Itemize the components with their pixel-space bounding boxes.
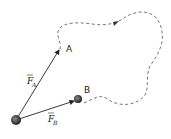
dashed-path bbox=[58, 12, 163, 104]
label-fa: F A bbox=[26, 75, 37, 88]
svg-text:A: A bbox=[31, 81, 37, 88]
path-direction-arrow-icon bbox=[113, 21, 119, 26]
label-fb: F B bbox=[47, 113, 58, 126]
particle-b bbox=[74, 95, 82, 103]
origin-particle bbox=[11, 115, 21, 125]
label-a: A bbox=[66, 44, 73, 54]
work-path-diagram: A B F A F B bbox=[0, 0, 171, 139]
svg-text:B: B bbox=[52, 119, 58, 126]
vector-fa bbox=[16, 50, 59, 120]
label-b: B bbox=[84, 85, 90, 95]
vector-fb bbox=[16, 101, 74, 120]
